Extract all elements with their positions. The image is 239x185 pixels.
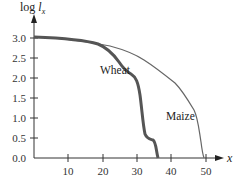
- svg-text:2.5: 2.5: [12, 52, 26, 64]
- svg-text:0.0: 0.0: [12, 152, 26, 164]
- svg-text:1.5: 1.5: [12, 92, 26, 104]
- wheat-curve: [34, 37, 158, 158]
- wheat-label: Wheat: [100, 64, 131, 76]
- x-tick-labels: 10 20 30 40 50: [63, 165, 213, 177]
- svg-text:0.5: 0.5: [12, 132, 26, 144]
- x-axis-title: x: [226, 151, 233, 165]
- chart: log lx x 3.0 2.5 2.0 1.5 1.0 0.5 0.0 10 …: [0, 0, 239, 185]
- svg-text:10: 10: [63, 165, 75, 177]
- svg-text:1.0: 1.0: [12, 112, 26, 124]
- x-axis-arrow-icon: [215, 155, 224, 161]
- maize-curve: [34, 37, 204, 158]
- svg-text:30: 30: [132, 165, 144, 177]
- y-axis-arrow-icon: [31, 14, 37, 23]
- svg-text:50: 50: [201, 165, 213, 177]
- y-axis-title: log lx: [20, 0, 46, 16]
- maize-label: Maize: [166, 110, 195, 122]
- svg-text:3.0: 3.0: [12, 32, 26, 44]
- svg-text:2.0: 2.0: [12, 72, 26, 84]
- svg-text:20: 20: [98, 165, 110, 177]
- svg-text:40: 40: [166, 165, 178, 177]
- y-tick-labels: 3.0 2.5 2.0 1.5 1.0 0.5 0.0: [12, 32, 26, 164]
